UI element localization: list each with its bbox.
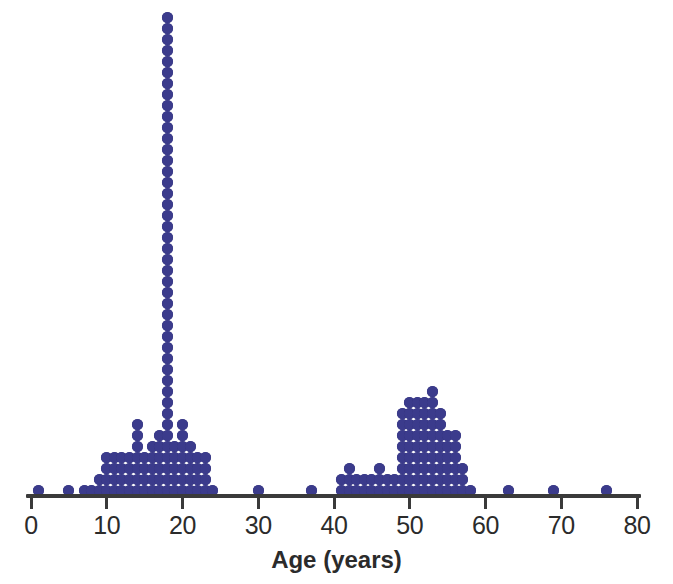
data-dot xyxy=(162,331,173,342)
data-dot xyxy=(200,474,211,485)
data-dot xyxy=(177,430,188,441)
data-dot xyxy=(162,89,173,100)
data-dot xyxy=(162,287,173,298)
plot-area xyxy=(0,0,673,500)
data-dot xyxy=(435,408,446,419)
data-dot xyxy=(457,463,468,474)
data-dot xyxy=(344,463,355,474)
data-dot xyxy=(162,12,173,23)
data-dot xyxy=(450,441,461,452)
data-dot xyxy=(162,298,173,309)
data-dot xyxy=(132,441,143,452)
data-dot xyxy=(162,78,173,89)
x-axis-tick xyxy=(181,496,184,509)
data-dot xyxy=(450,452,461,463)
data-dot xyxy=(162,23,173,34)
x-axis-tick-label: 0 xyxy=(1,511,61,540)
data-dot xyxy=(162,364,173,375)
x-axis-tick-label: 60 xyxy=(456,511,516,540)
x-axis-title: Age (years) xyxy=(0,546,673,574)
x-axis-tick xyxy=(333,496,336,509)
data-dot xyxy=(162,408,173,419)
data-dot xyxy=(162,144,173,155)
x-axis-tick-label: 30 xyxy=(228,511,288,540)
data-dot xyxy=(162,34,173,45)
data-dot xyxy=(162,56,173,67)
x-axis-tick-label: 20 xyxy=(153,511,213,540)
data-dot xyxy=(132,419,143,430)
dot-plot-figure: 01020304050607080 Age (years) xyxy=(0,0,673,584)
data-dot xyxy=(162,342,173,353)
data-dot xyxy=(162,155,173,166)
data-dot xyxy=(162,221,173,232)
data-dot xyxy=(162,276,173,287)
x-axis-tick xyxy=(105,496,108,509)
data-dot xyxy=(162,309,173,320)
data-dot xyxy=(162,210,173,221)
data-dot xyxy=(162,243,173,254)
data-dot xyxy=(132,430,143,441)
data-dot xyxy=(162,111,173,122)
x-axis-tick xyxy=(408,496,411,509)
data-dot xyxy=(162,265,173,276)
data-dot xyxy=(162,122,173,133)
x-axis-tick xyxy=(636,496,639,509)
data-dot xyxy=(162,133,173,144)
data-dot xyxy=(162,397,173,408)
data-dot xyxy=(427,386,438,397)
x-axis-tick-label: 80 xyxy=(607,511,667,540)
data-dot xyxy=(162,67,173,78)
data-dot xyxy=(162,419,173,430)
data-dot xyxy=(162,386,173,397)
data-dot xyxy=(162,100,173,111)
x-axis-tick xyxy=(30,496,33,509)
x-axis-tick xyxy=(484,496,487,509)
data-dot xyxy=(200,463,211,474)
data-dot xyxy=(162,353,173,364)
x-axis-tick-label: 10 xyxy=(77,511,137,540)
data-dot xyxy=(200,452,211,463)
x-axis-tick-label: 70 xyxy=(531,511,591,540)
x-axis-tick-label: 40 xyxy=(304,511,364,540)
x-axis-tick xyxy=(560,496,563,509)
data-dot xyxy=(162,375,173,386)
data-dot xyxy=(162,232,173,243)
x-axis-tick xyxy=(257,496,260,509)
data-dot xyxy=(162,45,173,56)
data-dot xyxy=(162,188,173,199)
data-dot xyxy=(435,419,446,430)
data-dot xyxy=(162,430,173,441)
data-dot xyxy=(162,177,173,188)
data-dot xyxy=(162,254,173,265)
data-dot xyxy=(162,199,173,210)
data-dot xyxy=(185,441,196,452)
data-dot xyxy=(457,474,468,485)
data-dot xyxy=(427,397,438,408)
data-dot xyxy=(162,166,173,177)
data-dot xyxy=(162,320,173,331)
data-dot xyxy=(374,463,385,474)
data-dot xyxy=(177,419,188,430)
x-axis-tick-label: 50 xyxy=(380,511,440,540)
data-dot xyxy=(450,430,461,441)
